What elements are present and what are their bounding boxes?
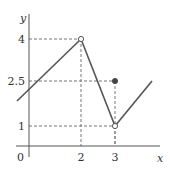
segment-2 <box>81 39 115 126</box>
piecewise-function-chart: y x 0 2312.54 <box>0 0 170 169</box>
axes: y x 0 <box>16 12 164 165</box>
tick-labels: 2312.54 <box>8 33 119 164</box>
segment-3 <box>115 81 152 126</box>
filled-point <box>112 78 117 83</box>
origin-label: 0 <box>17 151 24 164</box>
series-lines <box>17 39 152 126</box>
x-axis-label: x <box>157 152 164 165</box>
y-tick-label: 2.5 <box>8 75 26 88</box>
x-tick-label: 3 <box>112 151 119 164</box>
x-tick-label: 2 <box>78 151 85 164</box>
open-point <box>112 123 117 128</box>
y-axis-label: y <box>19 12 27 25</box>
open-point <box>78 36 83 41</box>
segment-1 <box>17 39 81 101</box>
y-tick-label: 1 <box>18 120 25 133</box>
y-tick-label: 4 <box>18 33 25 46</box>
